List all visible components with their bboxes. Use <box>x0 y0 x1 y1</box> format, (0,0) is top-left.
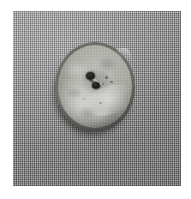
button-surface-fleck <box>102 83 104 85</box>
button-surface-fleck <box>99 102 102 104</box>
button-hole-lower-right <box>92 82 100 89</box>
button-surface-fleck <box>83 98 85 100</box>
image-description: Grayscale photograph of a single two-hol… <box>0 0 1 1</box>
button-hole-upper-left <box>86 72 95 80</box>
photograph-plate <box>13 11 181 186</box>
button-object <box>55 42 135 132</box>
button-surface-fleck <box>110 81 113 83</box>
image-canvas: Grayscale photograph of a single two-hol… <box>0 0 191 199</box>
button-surface-fleck <box>105 76 108 79</box>
